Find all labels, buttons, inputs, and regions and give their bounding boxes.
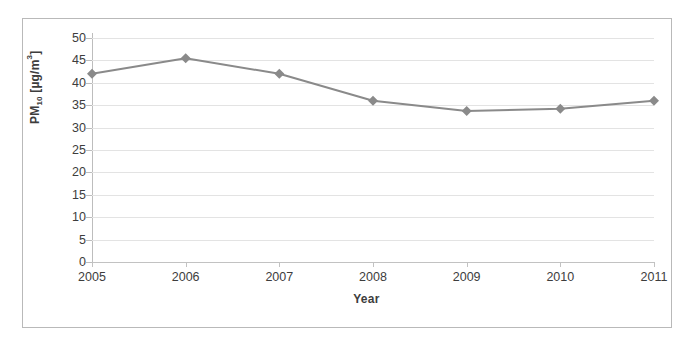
x-axis-title-text: Year [353, 292, 380, 306]
gridline [92, 240, 654, 241]
gridline [92, 217, 654, 218]
y-axis-tickmark [86, 172, 92, 173]
y-axis-tickmark [86, 240, 92, 241]
gridline [92, 105, 654, 106]
x-axis-tickmark [186, 262, 187, 267]
y-axis-tick-label: 50 [46, 32, 86, 45]
y-axis-tickmark [86, 83, 92, 84]
y-axis-tick-label: 20 [46, 166, 86, 179]
x-axis-tick-label: 2007 [239, 270, 319, 284]
y-axis-tickmark [86, 150, 92, 151]
x-axis-tick-label: 2010 [520, 270, 600, 284]
y-axis-tickmark [86, 195, 92, 196]
y-axis-tick-label: 10 [46, 211, 86, 224]
y-axis-tickmark [86, 60, 92, 61]
x-axis-tickmark [373, 262, 374, 267]
y-axis-tick-label: 25 [46, 144, 86, 157]
plot-area [92, 38, 654, 262]
gridline [92, 128, 654, 129]
x-axis-tickmark [654, 262, 655, 267]
y-axis-tickmark [86, 217, 92, 218]
x-axis-tickmark [560, 262, 561, 267]
y-axis-tick-label: 5 [46, 233, 86, 246]
y-axis-title-unit-superscript: 3 [25, 55, 34, 60]
y-axis-tick-label: 15 [46, 189, 86, 202]
x-axis-tick-label: 2005 [52, 270, 132, 284]
y-axis-title: PM10 [µg/m3] [28, 4, 46, 124]
line-chart: PM10 [µg/m3] 05101520253035404550 200520… [0, 0, 697, 344]
y-axis-tick-label: 0 [46, 256, 86, 269]
gridline [92, 195, 654, 196]
x-axis-tickmark [92, 262, 93, 267]
gridline [92, 150, 654, 151]
gridline [92, 83, 654, 84]
x-axis-tickmark [279, 262, 280, 267]
gridline [92, 38, 654, 39]
x-axis-tick-label: 2008 [333, 270, 413, 284]
y-axis-tick-label: 40 [46, 77, 86, 90]
x-axis-tickmark [467, 262, 468, 267]
y-axis-tick-label: 35 [46, 99, 86, 112]
y-axis-tickmark [86, 38, 92, 39]
y-axis-title-base: PM [28, 106, 42, 124]
y-axis-title-subscript: 10 [35, 96, 44, 105]
y-axis-tick-label: 45 [46, 54, 86, 67]
y-axis-tickmark [86, 105, 92, 106]
y-axis-tick-label: 30 [46, 121, 86, 134]
x-axis-tick-label: 2011 [614, 270, 694, 284]
x-axis-title: Year [0, 292, 697, 306]
gridline [92, 172, 654, 173]
x-axis-tick-label: 2006 [146, 270, 226, 284]
y-axis-title-unit-prefix: [µg/m [28, 60, 42, 97]
x-axis-tick-label: 2009 [427, 270, 507, 284]
gridline [92, 60, 654, 61]
y-axis-tickmark [86, 128, 92, 129]
